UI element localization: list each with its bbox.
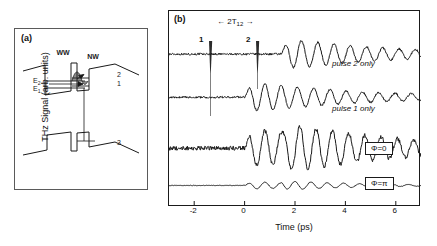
t12-text: 2T12 xyxy=(227,17,243,26)
t12-annotation: ← 2T12 → xyxy=(217,17,254,27)
x-tick-label: 4 xyxy=(342,206,346,215)
state-label-1: 1 xyxy=(117,80,121,87)
state-label-3: 3 xyxy=(117,139,121,146)
wide-well-label: WW xyxy=(56,49,70,56)
panel-a: (a) xyxy=(14,28,148,190)
phase-label-pi: Φ=π xyxy=(365,177,394,190)
x-tick-label: 6 xyxy=(393,206,397,215)
t12-subscript: 12 xyxy=(237,21,244,27)
panel-b-label: (b) xyxy=(174,14,186,24)
x-tick-label: -2 xyxy=(190,206,197,215)
trace-pulse-1-only xyxy=(169,84,421,111)
panel-b: (b) ← 2T12 → 1 2 pulse 2 only pulse 1 on… xyxy=(168,10,420,206)
pulse-icon-2 xyxy=(256,41,259,73)
pulse-label-2: 2 xyxy=(246,35,250,44)
t12-arrow-left: ← xyxy=(217,17,225,26)
x-axis-label: Time (ps) xyxy=(168,222,420,232)
caption-pulse-2-only: pulse 2 only xyxy=(332,59,375,68)
y-axis-label: THz Signal (arb. units) xyxy=(40,22,50,172)
t12-arrow-right: → xyxy=(246,17,254,26)
caption-pulse-1-only: pulse 1 only xyxy=(332,104,375,113)
state-label-2: 2 xyxy=(117,71,121,78)
x-tick-label: 2 xyxy=(292,206,296,215)
trace-pulse-2-only xyxy=(169,40,421,68)
pulse-icons xyxy=(209,41,259,73)
pulse-label-1: 1 xyxy=(199,35,203,44)
x-tick-label: 0 xyxy=(241,206,245,215)
x-tick-labels: -20246 xyxy=(168,206,420,218)
phase-label-zero: Φ=0 xyxy=(365,142,393,155)
band-diagram: WW NW E2 E1 2 1 3 xyxy=(15,29,147,189)
narrow-well-label: NW xyxy=(87,53,99,60)
figure-root: (a) xyxy=(0,0,437,246)
pulse-icon-1 xyxy=(209,41,212,73)
